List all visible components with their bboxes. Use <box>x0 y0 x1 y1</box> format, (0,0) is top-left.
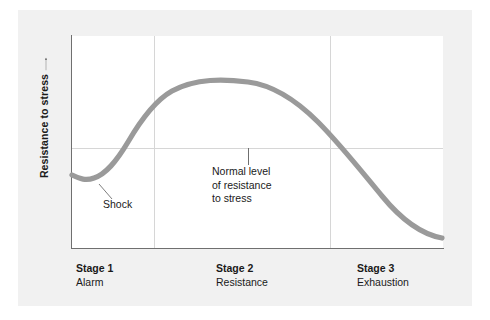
shock-annotation: Shock <box>103 198 132 210</box>
normal-level-gridline <box>72 148 443 149</box>
stage-divider-gridline-2 <box>330 36 331 248</box>
normal-level-line-1: Normal level <box>212 165 270 177</box>
stage-2-subtitle: Resistance <box>216 275 268 289</box>
normal-level-tick <box>248 148 249 165</box>
stage-label-2: Stage 2 Resistance <box>216 261 268 289</box>
stage-1-title: Stage 1 <box>76 261 113 275</box>
stage-label-3: Stage 3 Exhaustion <box>357 261 409 289</box>
gas-curve-figure: Resistance to stress Shock Normal level … <box>0 0 490 320</box>
stage-3-subtitle: Exhaustion <box>357 275 409 289</box>
stage-2-title: Stage 2 <box>216 261 268 275</box>
stage-divider-gridline-1 <box>154 36 155 248</box>
x-axis-line <box>71 248 444 249</box>
y-axis-line <box>71 35 72 249</box>
y-axis-label: Resistance to stress <box>38 74 50 178</box>
stage-3-title: Stage 3 <box>357 261 409 275</box>
normal-level-line-3: to stress <box>212 192 252 204</box>
stage-1-subtitle: Alarm <box>76 275 113 289</box>
y-axis-label-wrap: Resistance to stress <box>34 36 54 216</box>
plot-area <box>72 36 443 248</box>
normal-level-annotation: Normal level of resistance to stress <box>212 165 272 206</box>
stage-label-1: Stage 1 Alarm <box>76 261 113 289</box>
normal-level-line-2: of resistance <box>212 179 272 191</box>
